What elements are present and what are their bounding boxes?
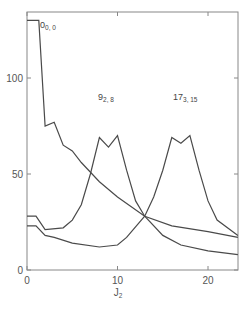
curve-label: 173, 15 — [173, 92, 198, 103]
y-tick-label: 50 — [12, 169, 24, 180]
curve-labels: 00, 092, 8173, 15 — [40, 20, 198, 103]
x-axis-label: J2 — [114, 287, 123, 299]
curve-label: 00, 0 — [40, 20, 56, 31]
y-tick-label: 100 — [6, 73, 23, 84]
curve-line — [27, 20, 238, 237]
y-tick-label: 0 — [17, 265, 23, 276]
chart-svg: 01020050100 00, 092, 8173, 15 J2 — [0, 0, 249, 313]
x-tick-label: 0 — [24, 275, 30, 286]
x-tick-label: 10 — [112, 275, 124, 286]
x-tick-label: 20 — [202, 275, 214, 286]
curves — [27, 20, 238, 254]
curve-label: 92, 8 — [98, 92, 114, 103]
